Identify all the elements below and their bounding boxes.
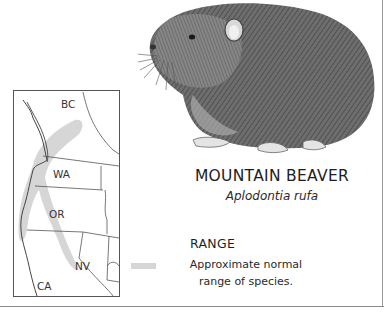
- page-border-bottom: [0, 306, 384, 307]
- range-legend-line-1: Approximate normal: [161, 256, 331, 273]
- species-scientific-name: Aplodontia rufa: [162, 189, 382, 203]
- mountain-beaver-illustration: [138, 0, 384, 165]
- map-label-or: OR: [49, 208, 65, 220]
- range-legend-line-2: range of species.: [161, 273, 331, 290]
- range-legend-text: Approximate normal range of species.: [161, 256, 331, 290]
- map-label-ca: CA: [37, 280, 52, 292]
- map-label-wa: WA: [53, 168, 71, 180]
- range-map: BC WA OR NV CA: [13, 90, 120, 297]
- map-label-bc: BC: [61, 98, 75, 110]
- range-legend-swatch: [131, 263, 156, 269]
- species-common-name: MOUNTAIN BEAVER: [162, 167, 382, 185]
- map-label-nv: NV: [75, 260, 91, 272]
- range-heading: RANGE: [190, 236, 235, 251]
